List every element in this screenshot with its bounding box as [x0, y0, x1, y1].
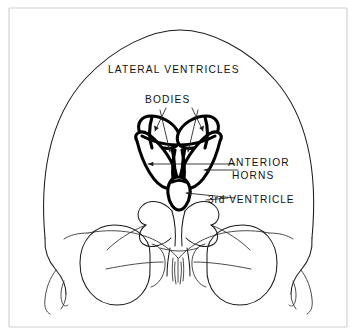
- diagram-canvas: LATERAL VENTRICLES BODIES ANTERIOR HORNS…: [0, 0, 356, 336]
- label-horns: HORNS: [232, 170, 275, 181]
- label-bodies: BODIES: [145, 94, 190, 105]
- label-third-ventricle: 3rd VENTRICLE: [208, 194, 294, 205]
- orbits-group: [80, 225, 277, 305]
- ventricle-diagram-figure: LATERAL VENTRICLES BODIES ANTERIOR HORNS…: [0, 0, 356, 336]
- label-lateral-ventricles: LATERAL VENTRICLES: [108, 64, 240, 75]
- label-anterior: ANTERIOR: [228, 157, 290, 168]
